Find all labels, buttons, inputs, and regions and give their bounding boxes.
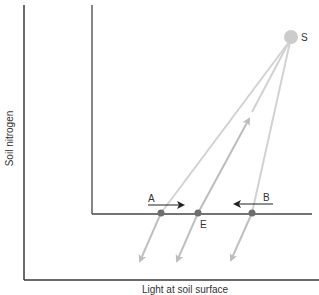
- point-e: [195, 210, 202, 217]
- supply-point-label: S: [301, 32, 308, 43]
- supply-line-e-upper: [252, 42, 289, 112]
- label-a: A: [148, 193, 155, 204]
- point-b: [249, 210, 256, 217]
- label-e: E: [200, 219, 207, 230]
- supply-vector-e: [198, 119, 249, 213]
- point-a: [158, 210, 165, 217]
- consumption-vector-a: [140, 213, 161, 261]
- supply-line-a: [161, 42, 289, 213]
- label-b: B: [263, 192, 270, 203]
- consumption-vector-b: [231, 213, 252, 260]
- y-axis-label: Soil nitrogen: [4, 94, 15, 184]
- supply-point: [284, 30, 298, 44]
- x-axis-label: Light at soil surface: [115, 284, 255, 295]
- consumption-vector-e: [177, 213, 198, 261]
